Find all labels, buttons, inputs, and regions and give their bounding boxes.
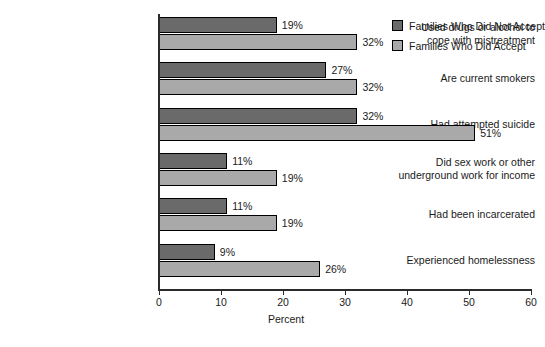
legend-swatch [392, 40, 403, 51]
bar[interactable] [159, 79, 357, 95]
x-axis-tick-label: 20 [277, 296, 289, 308]
bar-value-label: 27% [331, 63, 352, 77]
bar-value-label: 26% [325, 262, 346, 276]
bar-group: 27%32% [159, 62, 542, 95]
bar-group: 32%51% [159, 108, 542, 141]
bar-group: 11%19% [159, 198, 542, 231]
bar-value-label: 32% [362, 80, 383, 94]
bar-value-label: 9% [220, 245, 235, 259]
x-axis-tick [345, 290, 347, 295]
bar-value-label: 32% [362, 109, 383, 123]
bar-value-label: 19% [282, 18, 303, 32]
legend-label: Families Who Did Not Accept [409, 20, 545, 32]
x-axis-tick-label: 40 [401, 296, 413, 308]
bar-row: 19% [159, 215, 542, 231]
bar-value-label: 51% [480, 126, 501, 140]
bar[interactable] [159, 198, 227, 214]
x-axis-tick [531, 290, 533, 295]
x-axis-tick-label: 0 [156, 296, 162, 308]
x-axis-tick [283, 290, 285, 295]
x-axis-tick [159, 290, 161, 295]
bar-group: 9%26% [159, 244, 542, 277]
bar[interactable] [159, 108, 357, 124]
bar-row: 51% [159, 125, 542, 141]
x-axis-tick-label: 10 [215, 296, 227, 308]
bar-group: 11%19% [159, 153, 542, 186]
bar-value-label: 19% [282, 171, 303, 185]
bar[interactable] [159, 244, 215, 260]
x-axis-tick-label: 30 [339, 296, 351, 308]
legend-item[interactable]: Families Who Did Not Accept [392, 17, 545, 34]
bar-value-label: 19% [282, 216, 303, 230]
legend-item[interactable]: Families Who Did Accept [392, 37, 545, 54]
x-axis-tick [469, 290, 471, 295]
bar[interactable] [159, 62, 326, 78]
bar-row: 11% [159, 198, 542, 214]
x-axis-tick-label: 60 [525, 296, 537, 308]
bar-value-label: 11% [232, 154, 252, 168]
bar-value-label: 11% [232, 199, 252, 213]
x-axis-title: Percent [0, 313, 542, 325]
x-axis-tick [407, 290, 409, 295]
y-axis-line [158, 14, 160, 290]
bar[interactable] [159, 215, 277, 231]
bar-row: 9% [159, 244, 542, 260]
chart-legend: Families Who Did Not AcceptFamilies Who … [392, 17, 545, 57]
bar[interactable] [159, 153, 227, 169]
bar-row: 27% [159, 62, 542, 78]
legend-label: Families Who Did Accept [409, 40, 526, 52]
bar-row: 32% [159, 108, 542, 124]
bar-row: 32% [159, 79, 542, 95]
x-axis-tick-label: 50 [463, 296, 475, 308]
bar-row: 11% [159, 153, 542, 169]
bar[interactable] [159, 125, 475, 141]
bar[interactable] [159, 261, 320, 277]
x-axis-tick [221, 290, 223, 295]
legend-swatch [392, 20, 403, 31]
bar-row: 19% [159, 170, 542, 186]
bar[interactable] [159, 17, 277, 33]
bar[interactable] [159, 34, 357, 50]
bar[interactable] [159, 170, 277, 186]
bar-value-label: 32% [362, 35, 383, 49]
bar-row: 26% [159, 261, 542, 277]
x-axis-title-text: Percent [268, 313, 304, 325]
